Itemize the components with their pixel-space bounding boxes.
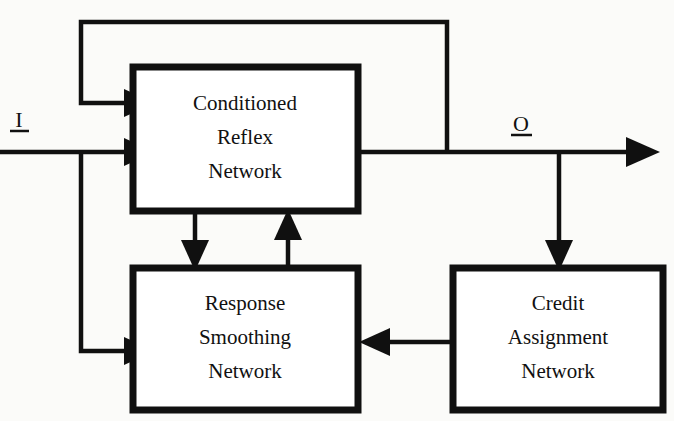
arrowhead-output-terminal: [626, 137, 660, 167]
block-diagram-svg: Conditioned Reflex Network Response Smoo…: [0, 0, 674, 421]
input-label-group: I: [10, 107, 29, 132]
connection-can-to-rsn: [359, 328, 453, 356]
connection-output-branch-to-can: [545, 152, 573, 271]
connection-crn-to-rsn: [181, 211, 209, 271]
diagram-canvas: Conditioned Reflex Network Response Smoo…: [0, 0, 674, 421]
output-label-group: O: [511, 111, 532, 136]
input-label: I: [15, 107, 22, 132]
connection-rsn-to-crn: [274, 209, 302, 268]
crn-label-line-2: Reflex: [217, 125, 273, 149]
box-credit-assignment-network[interactable]: Credit Assignment Network: [453, 268, 663, 410]
box-conditioned-reflex-network[interactable]: Conditioned Reflex Network: [133, 67, 358, 211]
can-label-line-2: Assignment: [508, 325, 609, 349]
output-label: O: [513, 111, 529, 136]
can-label-line-1: Credit: [532, 291, 585, 315]
rsn-label-line-2: Smoothing: [199, 325, 292, 349]
rsn-label-line-3: Network: [208, 359, 282, 383]
crn-label-line-3: Network: [208, 159, 282, 183]
can-label-line-3: Network: [521, 359, 595, 383]
box-response-smoothing-network[interactable]: Response Smoothing Network: [133, 268, 358, 410]
rsn-label-line-1: Response: [205, 291, 286, 315]
crn-label-line-1: Conditioned: [193, 91, 297, 115]
arrowhead-into-rsn-right: [359, 328, 390, 356]
connection-crn-to-output: [358, 137, 660, 167]
